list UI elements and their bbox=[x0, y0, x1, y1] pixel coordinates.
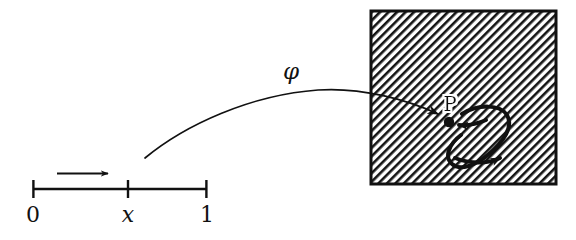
diagram-canvas: 0 x 1 φ P bbox=[0, 0, 576, 240]
unit-interval-group: 0 x 1 bbox=[26, 174, 214, 228]
label-zero: 0 bbox=[26, 202, 40, 227]
point-p-dot bbox=[444, 117, 454, 127]
hatched-square-group bbox=[371, 11, 556, 184]
label-p: P bbox=[443, 92, 456, 116]
label-one: 1 bbox=[200, 202, 214, 227]
label-x: x bbox=[122, 202, 135, 227]
figure-root: 0 x 1 φ P bbox=[0, 0, 576, 240]
hatched-square bbox=[371, 11, 556, 184]
phi-label: φ bbox=[283, 58, 300, 84]
